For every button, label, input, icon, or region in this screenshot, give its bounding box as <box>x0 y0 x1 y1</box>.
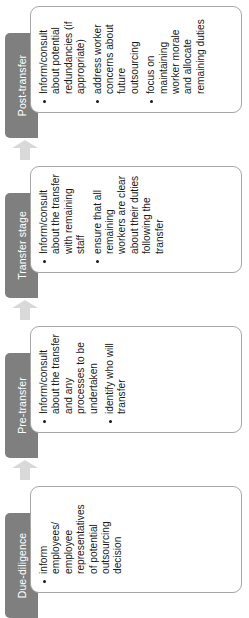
stage-pre-transfer: Pre-transfer Inform/consult about the tr… <box>0 321 249 458</box>
arrow-transfer-stage-to-post-transfer <box>0 138 249 161</box>
arrow-right-icon <box>12 460 38 480</box>
diagram-canvas: Due-diligence inform employees/ employee… <box>0 0 249 618</box>
process-flow-diagram: Due-diligence inform employees/ employee… <box>0 0 249 618</box>
list-item: Inform/consult about potential redundanc… <box>38 14 88 104</box>
list-item: Inform/consult about the transfer and an… <box>38 334 100 424</box>
bullet-list-post-transfer: Inform/consult about potential redundanc… <box>38 14 207 104</box>
bullet-list-due-diligence: inform employees/ employee representativ… <box>38 494 125 584</box>
bullet-list-pre-transfer: Inform/consult about the transfer and an… <box>38 334 129 424</box>
arrow-due-diligence-to-pre-transfer <box>0 458 249 481</box>
list-item: Inform/consult about the transfer with r… <box>38 174 88 264</box>
list-item: address worker concerns about future out… <box>92 14 142 104</box>
stage-transfer-stage: Transfer stage Inform/consult about the … <box>0 161 249 298</box>
arrow-right-icon <box>12 140 38 160</box>
stage-post-transfer: Post-transfer Inform/consult about poten… <box>0 1 249 138</box>
bullet-list-transfer-stage: Inform/consult about the transfer with r… <box>38 174 166 264</box>
stage-body-transfer-stage: Inform/consult about the transfer with r… <box>30 166 242 273</box>
list-item: ensure that all remaining workers are cl… <box>92 174 166 264</box>
stage-body-pre-transfer: Inform/consult about the transfer and an… <box>30 326 242 433</box>
stage-due-diligence: Due-diligence inform employees/ employee… <box>0 481 249 618</box>
stage-body-post-transfer: Inform/consult about potential redundanc… <box>30 6 242 113</box>
arrow-pre-transfer-to-transfer-stage <box>0 298 249 321</box>
list-item: identify who will transfer <box>104 334 129 424</box>
list-item: inform employees/ employee representativ… <box>38 494 125 584</box>
stage-body-due-diligence: inform employees/ employee representativ… <box>30 486 242 593</box>
arrow-right-icon <box>12 300 38 320</box>
list-item: focus on maintaining worker morale and a… <box>145 14 207 104</box>
